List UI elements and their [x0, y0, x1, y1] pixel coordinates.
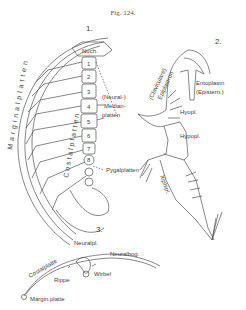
label-pygal: Pygalplatten — [106, 167, 139, 173]
neural-1: 1 — [87, 61, 91, 67]
label-wirbel: Wirbel — [94, 271, 111, 277]
neural-2: 2 — [87, 74, 91, 80]
neural-8: 8 — [87, 157, 91, 163]
turtle-shell-diagram: 1. Nuch. 1 2 3 4 5 6 7 8 (Neural-) Media… — [0, 0, 246, 310]
label-neural-median: (Neural-) — [102, 94, 126, 100]
panel-1-number: 1. — [86, 24, 93, 33]
label-hypoplastron: Hypopl. — [180, 133, 201, 139]
label-hyoplastron: Hyopl. — [180, 109, 197, 115]
neural-6: 6 — [87, 133, 91, 139]
neural-7: 7 — [87, 146, 91, 152]
label-rippe: Rippe — [54, 277, 70, 283]
neural-3: 3 — [87, 89, 91, 95]
label-platten: platten — [102, 112, 120, 118]
neural-4: 4 — [87, 104, 91, 110]
label-entoplastron: Entoplastn — [196, 80, 224, 86]
panel-3-cross-section — [22, 254, 161, 300]
panel-2-number: 2. — [215, 37, 222, 46]
label-median: Median- — [104, 103, 126, 109]
label-neuralbog: Neuralbog. — [110, 251, 140, 257]
label-episternum: (Epistern.) — [196, 89, 224, 95]
label-costal: Costalplatten — [62, 111, 81, 178]
label-neuralpl: Neuralpl. — [74, 240, 98, 246]
panel-3-number: 3. — [96, 225, 103, 234]
label-marginplatte: Margin.platte — [30, 296, 65, 302]
label-nuchal: Nuch. — [82, 48, 98, 54]
label-xiphiplastron: Xiphipl. — [159, 174, 171, 195]
neural-5: 5 — [87, 119, 91, 125]
panel-2-plastron — [138, 50, 222, 240]
